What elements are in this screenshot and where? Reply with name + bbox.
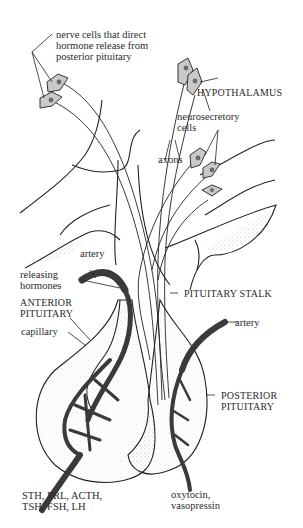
label-pituitary-stalk: PITUITARY STALK xyxy=(184,288,272,299)
label-line: neurosecretory xyxy=(177,111,239,122)
label-line: hormones xyxy=(20,280,61,291)
label-line: vasopressin xyxy=(171,500,220,511)
label-line: PITUITARY xyxy=(221,401,277,412)
label-anterior-pituitary: ANTERIOR PITUITARY xyxy=(20,297,73,319)
label-capillary: capillary xyxy=(21,326,58,337)
label-nerve-cells: nerve cells that direct hormone release … xyxy=(56,29,148,62)
label-artery-left: artery xyxy=(80,248,104,259)
label-anterior-hormones: STH, PRL, ACTH, TSH, FSH, LH xyxy=(22,490,102,512)
diagram-artwork xyxy=(0,0,303,528)
label-line: oxytocin, xyxy=(171,489,220,500)
label-line: posterior pituitary xyxy=(56,51,148,62)
label-artery-right: artery xyxy=(235,317,259,328)
label-axons: axons xyxy=(158,154,183,165)
label-line: PITUITARY xyxy=(20,308,73,319)
label-line: nerve cells that direct xyxy=(56,29,148,40)
tissue-shading xyxy=(30,210,272,262)
label-line: POSTERIOR xyxy=(221,390,277,401)
label-line: TSH, FSH, LH xyxy=(22,501,102,512)
hypothalamus-pituitary-diagram: nerve cells that direct hormone release … xyxy=(0,0,303,528)
label-line: releasing xyxy=(20,269,61,280)
label-line: ANTERIOR xyxy=(20,297,73,308)
pituitary-gland xyxy=(36,300,207,483)
label-releasing-hormones: releasing hormones xyxy=(20,269,61,291)
label-neurosecretory-cells: neurosecretory cells xyxy=(177,111,239,133)
label-line: STH, PRL, ACTH, xyxy=(22,490,102,501)
label-line: hormone release from xyxy=(56,40,148,51)
label-line: cells xyxy=(177,122,239,133)
label-posterior-pituitary: POSTERIOR PITUITARY xyxy=(221,390,277,412)
label-posterior-hormones: oxytocin, vasopressin xyxy=(171,489,220,511)
label-hypothalamus: HYPOTHALAMUS xyxy=(197,87,282,98)
